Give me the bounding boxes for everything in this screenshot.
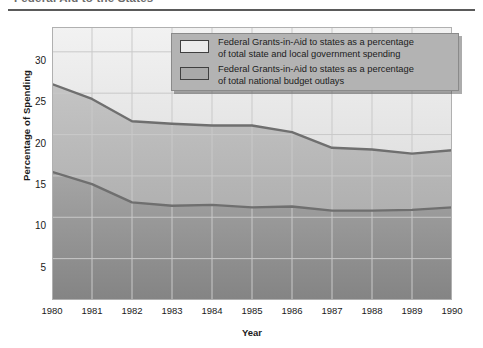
legend-swatch-icon xyxy=(180,67,209,80)
x-tick-label: 1984 xyxy=(190,305,234,316)
x-axis-title: Year xyxy=(52,327,452,338)
x-tick-label: 1982 xyxy=(110,305,154,316)
y-tick-label: 10 xyxy=(6,220,46,231)
header-divider xyxy=(8,9,475,11)
x-tick-label: 1988 xyxy=(350,305,394,316)
legend-item-label-line1: Federal Grants-in-Aid to states as a per… xyxy=(218,63,458,75)
legend-item-label: Federal Grants-in-Aid to states as a per… xyxy=(218,36,458,60)
y-tick-label: 30 xyxy=(6,55,46,66)
figure-caption-text: Federal Aid to the States xyxy=(14,0,153,4)
x-tick-label: 1981 xyxy=(70,305,114,316)
chart-figure: Federal Aid to the States Percentage of … xyxy=(0,0,483,348)
x-tick-label: 1989 xyxy=(390,305,434,316)
legend-swatch-icon xyxy=(180,40,209,53)
figure-caption-cropped: Federal Aid to the States xyxy=(0,0,483,9)
legend-item-label-line2: of total state and local government spen… xyxy=(218,48,458,60)
x-tick-label: 1983 xyxy=(150,305,194,316)
legend-item-label-line2: of total national budget outlays xyxy=(218,75,458,87)
legend-item-label: Federal Grants-in-Aid to states as a per… xyxy=(218,63,458,87)
legend-item-label-line1: Federal Grants-in-Aid to states as a per… xyxy=(218,36,458,48)
legend-item[interactable]: Federal Grants-in-Aid to states as a per… xyxy=(180,64,455,90)
legend-item[interactable]: Federal Grants-in-Aid to states as a per… xyxy=(180,37,455,63)
y-tick-label: 5 xyxy=(6,262,46,273)
y-tick-label: 15 xyxy=(6,179,46,190)
y-tick-label: 25 xyxy=(6,96,46,107)
y-tick-label: 20 xyxy=(6,138,46,149)
x-tick-label: 1980 xyxy=(30,305,74,316)
x-tick-label: 1990 xyxy=(430,305,474,316)
x-tick-label: 1987 xyxy=(310,305,354,316)
x-tick-label: 1985 xyxy=(230,305,274,316)
x-tick-label: 1986 xyxy=(270,305,314,316)
chart-legend: Federal Grants-in-Aid to states as a per… xyxy=(171,33,459,91)
